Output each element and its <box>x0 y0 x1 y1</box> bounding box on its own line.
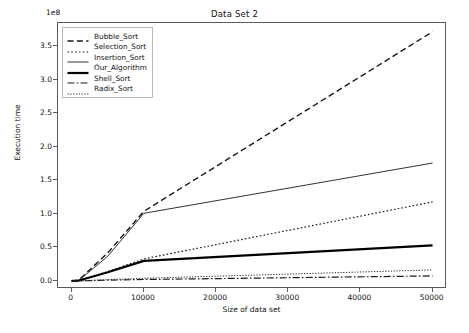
y-axis-tick-label: 2.0 <box>24 141 52 150</box>
y-axis-title: Execution time <box>13 83 22 183</box>
y-axis-tick-label: 0.5 <box>24 242 52 251</box>
y-axis-tick-labels: 0.00.51.01.52.02.53.03.5 <box>20 0 52 333</box>
y-axis-tick-mark <box>53 213 57 214</box>
series-line-insertion_sort <box>72 163 433 281</box>
y-axis-tick-label: 1.5 <box>24 175 52 184</box>
y-axis-tick-label: 2.5 <box>24 108 52 117</box>
y-axis-tick-label: 3.5 <box>24 41 52 50</box>
y-axis-tick-mark <box>53 146 57 147</box>
chart-figure: Data Set 2 1e8 0.00.51.01.52.02.53.03.5 … <box>0 0 469 333</box>
legend-line-swatch <box>67 63 89 73</box>
legend-item-insertion_sort[interactable]: Insertion_Sort <box>67 52 147 63</box>
legend-line-swatch <box>67 84 89 94</box>
legend-line-swatch <box>67 73 89 83</box>
legend-line-swatch <box>67 31 89 41</box>
y-axis-tick-mark <box>53 112 57 113</box>
y-axis-tick-mark <box>53 246 57 247</box>
legend-item-bubble_sort[interactable]: Bubble_Sort <box>67 31 147 42</box>
legend-item-label: Insertion_Sort <box>94 53 145 62</box>
legend-item-label: Bubble_Sort <box>94 32 138 41</box>
x-axis-tick-label: 50000 <box>420 293 444 302</box>
x-axis-tick-label: 0 <box>68 293 73 302</box>
y-axis-tick-label: 1.0 <box>24 208 52 217</box>
x-axis-tick-label: 10000 <box>131 293 155 302</box>
legend-item-label: Selection_Sort <box>94 42 146 51</box>
legend-line-swatch <box>67 42 89 52</box>
y-axis-tick-mark <box>53 179 57 180</box>
chart-title: Data Set 2 <box>0 9 469 19</box>
x-axis-title: Size of data set <box>57 305 446 314</box>
y-axis-tick-mark <box>53 280 57 281</box>
legend-item-label: Shell_Sort <box>94 74 130 83</box>
y-axis-tick-label: 0.0 <box>24 275 52 284</box>
legend-item-label: Radix_Sort <box>94 84 133 93</box>
y-axis-tick-mark <box>53 45 57 46</box>
x-axis-tick-label: 30000 <box>275 293 299 302</box>
series-line-selection_sort <box>72 202 433 281</box>
legend-item-shell_sort[interactable]: Shell_Sort <box>67 73 147 84</box>
series-line-radix_sort <box>72 270 433 281</box>
series-line-shell_sort <box>72 276 433 281</box>
x-axis-tick-label: 20000 <box>203 293 227 302</box>
chart-legend[interactable]: Bubble_SortSelection_SortInsertion_SortO… <box>62 27 153 98</box>
legend-item-selection_sort[interactable]: Selection_Sort <box>67 42 147 53</box>
x-axis-tick-label: 40000 <box>347 293 371 302</box>
legend-item-our_algorithm[interactable]: Our_Algorithm <box>67 63 147 74</box>
y-axis-tick-label: 3.0 <box>24 74 52 83</box>
series-line-our_algorithm <box>72 245 433 281</box>
legend-line-swatch <box>67 52 89 62</box>
y-axis-tick-mark <box>53 79 57 80</box>
legend-item-radix_sort[interactable]: Radix_Sort <box>67 84 147 95</box>
legend-item-label: Our_Algorithm <box>94 63 147 72</box>
